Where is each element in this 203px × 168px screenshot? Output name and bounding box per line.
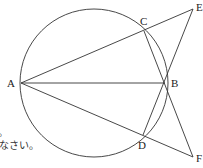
segment-ED [143, 9, 193, 135]
point-label-C: C [140, 15, 147, 27]
point-label-F: F [196, 152, 202, 164]
point-label-E: E [196, 1, 203, 13]
point-label-D: D [138, 139, 146, 151]
partial-text-line2: なさい。 [0, 140, 39, 151]
segment-CF [144, 31, 193, 157]
partial-text-line1: 。 [0, 127, 8, 138]
point-label-B: B [171, 77, 178, 89]
geometry-diagram: A B C D E F 。 なさい。 [0, 0, 203, 168]
point-label-A: A [7, 77, 15, 89]
